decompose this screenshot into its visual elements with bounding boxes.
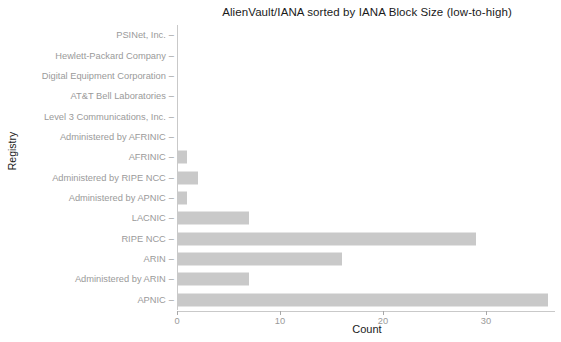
y-tick-label: PSINet, Inc.– bbox=[4, 30, 174, 40]
y-tick-label-text: PSINet, Inc. bbox=[116, 30, 166, 40]
y-tick-label: Administered by AFRINIC– bbox=[4, 132, 174, 142]
bar bbox=[177, 90, 178, 103]
x-tick-mark bbox=[280, 311, 281, 315]
bar bbox=[177, 232, 476, 245]
y-tick-label-text: Administered by AFRINIC bbox=[60, 132, 166, 142]
y-tick-dash: – bbox=[169, 132, 174, 142]
plot-panel bbox=[177, 25, 555, 310]
y-tick-label: AFRINIC– bbox=[4, 152, 174, 162]
y-tick-label: ARIN– bbox=[4, 254, 174, 264]
y-tick-label: Administered by APNIC– bbox=[4, 193, 174, 203]
x-axis-line bbox=[177, 311, 555, 312]
bar bbox=[177, 293, 548, 306]
bar bbox=[177, 110, 178, 123]
y-tick-label: APNIC– bbox=[4, 295, 174, 305]
y-tick-label: AT&T Bell Laboratories– bbox=[4, 91, 174, 101]
bar bbox=[177, 192, 187, 205]
y-tick-label-text: RIPE NCC bbox=[121, 234, 165, 244]
y-tick-dash: – bbox=[169, 193, 174, 203]
bar bbox=[177, 212, 249, 225]
y-tick-dash: – bbox=[169, 274, 174, 284]
bar bbox=[177, 171, 198, 184]
y-tick-label: Administered by ARIN– bbox=[4, 274, 174, 284]
x-tick-mark bbox=[177, 311, 178, 315]
x-axis-title: Count bbox=[177, 323, 557, 335]
y-tick-label-text: Administered by APNIC bbox=[69, 193, 166, 203]
y-tick-dash: – bbox=[169, 234, 174, 244]
y-tick-label: RIPE NCC– bbox=[4, 234, 174, 244]
y-tick-label: Digital Equipment Corporation– bbox=[4, 71, 174, 81]
bar bbox=[177, 151, 187, 164]
y-tick-dash: – bbox=[169, 254, 174, 264]
y-tick-label-text: Level 3 Communications, Inc. bbox=[44, 112, 166, 122]
x-tick-mark bbox=[383, 311, 384, 315]
y-tick-label-text: Hewlett-Packard Company bbox=[55, 51, 166, 61]
y-tick-dash: – bbox=[169, 213, 174, 223]
y-tick-dash: – bbox=[169, 295, 174, 305]
y-tick-label: Hewlett-Packard Company– bbox=[4, 51, 174, 61]
chart-title: AlienVault/IANA sorted by IANA Block Siz… bbox=[177, 6, 557, 18]
bar bbox=[177, 29, 178, 42]
y-tick-label-text: AT&T Bell Laboratories bbox=[71, 91, 166, 101]
y-tick-label-text: Digital Equipment Corporation bbox=[42, 71, 166, 81]
y-tick-label: LACNIC– bbox=[4, 213, 174, 223]
y-tick-dash: – bbox=[169, 112, 174, 122]
bar-chart-figure: AlienVault/IANA sorted by IANA Block Siz… bbox=[0, 0, 561, 342]
y-tick-label-text: APNIC bbox=[137, 295, 165, 305]
y-tick-dash: – bbox=[169, 30, 174, 40]
bar bbox=[177, 130, 178, 143]
y-tick-label-text: ARIN bbox=[144, 254, 166, 264]
y-tick-label-text: LACNIC bbox=[132, 213, 166, 223]
y-tick-dash: – bbox=[169, 71, 174, 81]
y-tick-label: Administered by RIPE NCC– bbox=[4, 173, 174, 183]
bar bbox=[177, 253, 342, 266]
bar bbox=[177, 69, 178, 82]
y-tick-label-text: AFRINIC bbox=[129, 152, 166, 162]
y-tick-dash: – bbox=[169, 173, 174, 183]
y-tick-dash: – bbox=[169, 51, 174, 61]
y-tick-label: Level 3 Communications, Inc.– bbox=[4, 112, 174, 122]
y-tick-dash: – bbox=[169, 152, 174, 162]
bar bbox=[177, 273, 249, 286]
bar bbox=[177, 49, 178, 62]
y-tick-dash: – bbox=[169, 91, 174, 101]
x-tick-mark bbox=[486, 311, 487, 315]
y-tick-label-text: Administered by ARIN bbox=[75, 274, 166, 284]
y-tick-label-text: Administered by RIPE NCC bbox=[52, 173, 166, 183]
